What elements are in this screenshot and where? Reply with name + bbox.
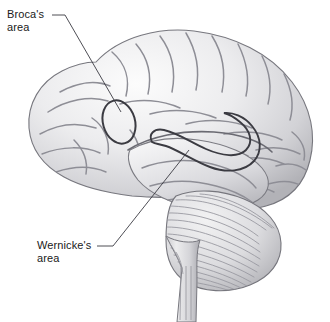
cerebrum-group [29, 30, 313, 210]
brain-diagram-figure: Broca's area Wernicke's area [0, 0, 330, 322]
brocas-label-line2: area [7, 21, 44, 34]
brain-illustration [0, 0, 330, 322]
wernickes-label-line1: Wernicke's [37, 239, 91, 251]
wernickes-area-label: Wernicke's area [37, 239, 91, 265]
wernickes-label-line2: area [37, 252, 91, 265]
brocas-label-line1: Broca's [7, 8, 44, 20]
brocas-area-label: Broca's area [7, 8, 44, 34]
